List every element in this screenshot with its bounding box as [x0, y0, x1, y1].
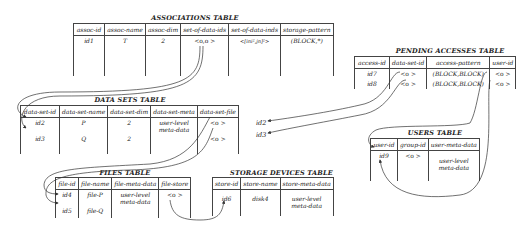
- pointer-arrows: [0, 0, 517, 226]
